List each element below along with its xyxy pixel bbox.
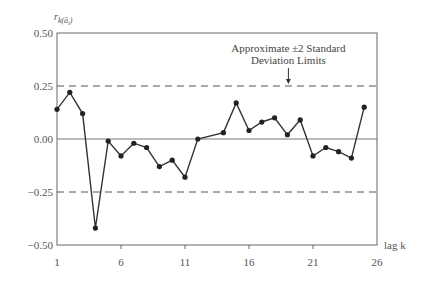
x-tick-label: 16 xyxy=(244,256,256,268)
data-point xyxy=(170,158,175,163)
data-point xyxy=(182,175,187,180)
data-point xyxy=(93,225,98,230)
data-point xyxy=(336,149,341,154)
x-tick-label: 11 xyxy=(180,256,191,268)
y-tick-label: −0.50 xyxy=(28,239,54,251)
acf-chart: 0.500.250.00−0.25−0.50 1611162126 Approx… xyxy=(0,0,427,284)
data-point xyxy=(67,90,72,95)
data-point xyxy=(144,145,149,150)
y-tick-label: −0.25 xyxy=(28,186,54,198)
data-point xyxy=(157,164,162,169)
data-point xyxy=(54,107,59,112)
data-point xyxy=(80,111,85,116)
data-point xyxy=(118,153,123,158)
data-point xyxy=(298,117,303,122)
x-tick-label: 6 xyxy=(118,256,124,268)
x-tick-label: 1 xyxy=(54,256,60,268)
data-point xyxy=(362,105,367,110)
x-axis-ticks: 1611162126 xyxy=(54,245,383,268)
y-axis-title-text: rk(ât) xyxy=(54,11,73,26)
series-line xyxy=(57,92,364,228)
x-tick-label: 21 xyxy=(308,256,319,268)
reference-lines xyxy=(57,86,377,192)
arrowhead-icon xyxy=(286,79,291,84)
y-axis-title: rk(ât) xyxy=(54,11,73,26)
limits-annotation: Approximate ±2 Standard Deviation Limits xyxy=(231,42,346,84)
data-series xyxy=(54,90,366,231)
data-point xyxy=(323,145,328,150)
data-point xyxy=(259,119,264,124)
annotation-line-2: Deviation Limits xyxy=(251,54,326,66)
y-tick-label: 0.00 xyxy=(34,133,54,145)
y-tick-label: 0.50 xyxy=(34,27,54,39)
data-point xyxy=(310,153,315,158)
data-point xyxy=(285,132,290,137)
data-point xyxy=(195,136,200,141)
data-point xyxy=(234,100,239,105)
data-point xyxy=(246,128,251,133)
y-axis-ticks: 0.500.250.00−0.25−0.50 xyxy=(28,27,54,251)
x-axis-title: lag k xyxy=(384,239,406,251)
data-point xyxy=(349,155,354,160)
data-point xyxy=(131,141,136,146)
data-point xyxy=(221,130,226,135)
y-tick-label: 0.25 xyxy=(34,80,54,92)
x-tick-label: 26 xyxy=(372,256,384,268)
annotation-line-1: Approximate ±2 Standard xyxy=(231,42,346,54)
data-point xyxy=(106,139,111,144)
data-point xyxy=(272,115,277,120)
